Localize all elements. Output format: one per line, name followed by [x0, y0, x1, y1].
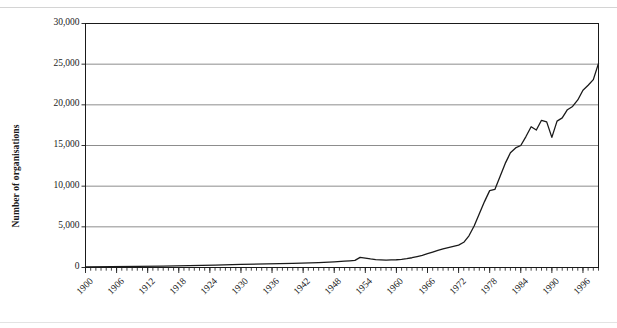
- y-tick-label: 15,000: [22, 139, 80, 149]
- y-tick-label: 5,000: [22, 220, 80, 230]
- y-tick-label: 20,000: [22, 98, 80, 108]
- y-tick-label: 30,000: [22, 17, 80, 27]
- chart-figure: Number of organisations 05,00010,00015,0…: [0, 0, 617, 328]
- x-major-ticks-group: [86, 268, 583, 274]
- y-tick-label: 10,000: [22, 180, 80, 190]
- y-tick-label: 0: [22, 261, 80, 271]
- y-tick-marks-group: [82, 24, 86, 268]
- y-tick-label: 25,000: [22, 58, 80, 68]
- data-series-line: [86, 63, 599, 267]
- gridlines-group: [86, 64, 599, 227]
